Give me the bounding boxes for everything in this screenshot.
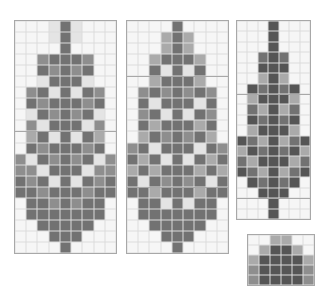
stitch-cell xyxy=(206,176,217,187)
stitch-cell xyxy=(94,176,105,187)
stitch-cell xyxy=(172,231,183,242)
stitch-cell xyxy=(300,63,310,73)
stitch-cell xyxy=(149,120,160,131)
stitch-cell xyxy=(206,54,217,65)
stitch-cell xyxy=(194,209,205,220)
stitch-cell xyxy=(105,54,116,65)
stitch-cell xyxy=(237,198,247,208)
stitch-cell xyxy=(300,146,310,156)
stitch-cell xyxy=(71,154,82,165)
stitch-cell xyxy=(237,31,247,41)
stitch-cell xyxy=(217,120,228,131)
stitch-cell xyxy=(258,136,268,146)
stitch-cell xyxy=(172,165,183,176)
stitch-cell xyxy=(279,167,289,177)
stitch-cell xyxy=(183,220,194,231)
stitch-cell xyxy=(71,131,82,142)
stitch-cell xyxy=(49,231,60,242)
stitch-cell xyxy=(206,98,217,109)
stitch-cell xyxy=(60,154,71,165)
stitch-cell xyxy=(206,187,217,198)
stitch-cell xyxy=(268,42,278,52)
stitch-cell xyxy=(172,242,183,253)
stitch-cell xyxy=(82,143,93,154)
stitch-cell xyxy=(194,198,205,209)
stitch-cell xyxy=(138,209,149,220)
stitch-cell xyxy=(161,43,172,54)
stitch-cell xyxy=(172,176,183,187)
section-divider xyxy=(15,131,116,132)
stitch-cell xyxy=(183,109,194,120)
stitch-grid xyxy=(237,21,310,219)
stitch-cell xyxy=(138,165,149,176)
stitch-cell xyxy=(71,98,82,109)
stitch-cell xyxy=(149,165,160,176)
stitch-cell xyxy=(138,242,149,253)
stitch-cell xyxy=(206,87,217,98)
stitch-cell xyxy=(300,84,310,94)
stitch-cell xyxy=(303,235,314,245)
stitch-cell xyxy=(289,156,299,166)
stitch-cell xyxy=(94,21,105,32)
stitch-cell xyxy=(289,146,299,156)
stitch-cell xyxy=(71,65,82,76)
stitch-cell xyxy=(49,87,60,98)
stitch-cell xyxy=(194,43,205,54)
stitch-cell xyxy=(300,156,310,166)
stitch-cell xyxy=(194,165,205,176)
stitch-cell xyxy=(60,131,71,142)
stitch-cell xyxy=(26,98,37,109)
stitch-cell xyxy=(194,120,205,131)
stitch-cell xyxy=(258,31,268,41)
stitch-cell xyxy=(194,54,205,65)
stitch-cell xyxy=(206,131,217,142)
stitch-cell xyxy=(237,84,247,94)
stitch-cell xyxy=(161,242,172,253)
stitch-cell xyxy=(49,154,60,165)
stitch-cell xyxy=(127,65,138,76)
stitch-cell xyxy=(183,32,194,43)
stitch-cell xyxy=(60,98,71,109)
stitch-cell xyxy=(268,21,278,31)
stitch-cell xyxy=(49,54,60,65)
stitch-cell xyxy=(94,54,105,65)
chart-panel-4 xyxy=(247,234,315,286)
stitch-cell xyxy=(26,231,37,242)
stitch-cell xyxy=(15,98,26,109)
stitch-cell xyxy=(94,198,105,209)
stitch-cell xyxy=(71,43,82,54)
stitch-cell xyxy=(138,120,149,131)
stitch-cell xyxy=(206,65,217,76)
stitch-cell xyxy=(26,65,37,76)
stitch-cell xyxy=(247,21,257,31)
stitch-cell xyxy=(279,209,289,219)
stitch-cell xyxy=(161,98,172,109)
stitch-cell xyxy=(247,52,257,62)
stitch-cell xyxy=(247,146,257,156)
stitch-cell xyxy=(49,143,60,154)
stitch-cell xyxy=(259,245,270,255)
stitch-cell xyxy=(258,156,268,166)
stitch-cell xyxy=(161,143,172,154)
stitch-cell xyxy=(127,32,138,43)
stitch-cell xyxy=(237,136,247,146)
stitch-cell xyxy=(105,242,116,253)
stitch-cell xyxy=(82,165,93,176)
stitch-cell xyxy=(289,177,299,187)
stitch-cell xyxy=(26,220,37,231)
stitch-cell xyxy=(149,32,160,43)
stitch-cell xyxy=(82,187,93,198)
stitch-cell xyxy=(127,209,138,220)
stitch-cell xyxy=(82,65,93,76)
stitch-cell xyxy=(206,120,217,131)
stitch-cell xyxy=(281,255,292,265)
stitch-cell xyxy=(268,188,278,198)
stitch-cell xyxy=(161,187,172,198)
stitch-cell xyxy=(172,154,183,165)
stitch-cell xyxy=(279,21,289,31)
stitch-cell xyxy=(60,65,71,76)
stitch-cell xyxy=(258,94,268,104)
stitch-cell xyxy=(279,94,289,104)
stitch-cell xyxy=(37,165,48,176)
stitch-cell xyxy=(37,143,48,154)
